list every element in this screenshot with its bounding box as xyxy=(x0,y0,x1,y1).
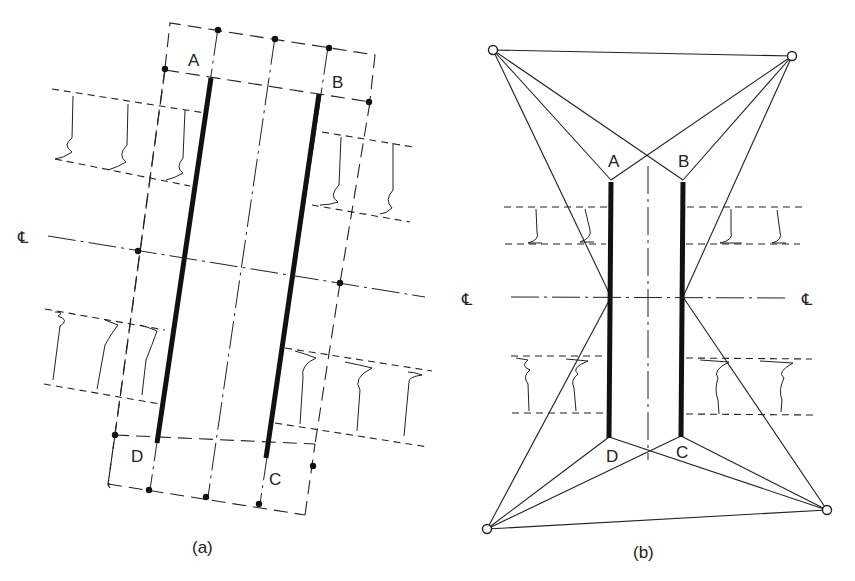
node-dot xyxy=(272,36,278,42)
node-dot xyxy=(162,66,168,72)
tieback-ray xyxy=(683,297,827,510)
soil-profile xyxy=(404,372,422,436)
anchor-ring xyxy=(788,52,797,61)
tieback-ray xyxy=(683,56,792,180)
node-dot xyxy=(256,501,262,507)
node-dot xyxy=(215,27,221,33)
centerline-b xyxy=(511,297,787,298)
node-dot xyxy=(112,432,118,438)
node-dot xyxy=(337,280,343,286)
soil-profile xyxy=(760,361,793,412)
wall-left xyxy=(609,182,611,438)
tieback-ray xyxy=(487,436,681,529)
centerline-label-b-left: ℄ xyxy=(461,290,473,309)
profile-band-bottom xyxy=(55,159,190,186)
soil-profile xyxy=(566,359,588,411)
corner-label-b: B xyxy=(332,73,343,92)
tieback-ray xyxy=(493,50,611,180)
anchor-ring xyxy=(489,46,498,55)
soil-profile xyxy=(772,210,786,243)
corner-label-d: D xyxy=(131,447,143,466)
figure-canvas: ℄ A xyxy=(0,0,855,581)
tieback-ray xyxy=(493,50,611,297)
soil-profile xyxy=(53,312,65,380)
soil-profile xyxy=(140,325,157,395)
axis-line-2 xyxy=(208,37,275,497)
profile-band-top xyxy=(52,89,205,113)
profile-band-top xyxy=(322,132,413,147)
anchor-ring xyxy=(483,525,492,534)
node-dot xyxy=(203,494,209,500)
tieback-ray xyxy=(609,437,827,510)
soil-profile xyxy=(97,320,118,389)
soil-profile xyxy=(700,360,729,414)
profile-band-top xyxy=(686,358,812,359)
centerline-a xyxy=(48,236,425,297)
soil-profile xyxy=(166,110,185,180)
node-dot xyxy=(146,487,152,493)
tieback-ray xyxy=(683,56,792,297)
tieback-ray xyxy=(681,436,827,510)
centerline-label-a: ℄ xyxy=(17,228,29,247)
soil-profile xyxy=(380,143,393,214)
bottom-strut xyxy=(487,510,827,529)
tieback-ray xyxy=(487,437,609,529)
tieback-ray xyxy=(493,50,683,180)
soil-profile xyxy=(720,209,742,243)
corner-label-b: B xyxy=(678,152,689,171)
corner-label-c: C xyxy=(676,443,688,462)
corner-label-a: A xyxy=(188,51,200,70)
soil-profile xyxy=(108,104,128,170)
caption-b: (b) xyxy=(633,543,654,562)
profile-band-bottom xyxy=(312,205,410,222)
soil-profile xyxy=(295,351,316,424)
tieback-ray xyxy=(611,56,792,180)
profile-band-top xyxy=(285,348,432,371)
profile-band-bottom xyxy=(686,414,814,415)
soil-profile xyxy=(516,358,530,411)
soil-profile xyxy=(345,362,372,431)
panel-b: ℄ ℄ A B C D (b) xyxy=(461,46,832,563)
caption-a: (a) xyxy=(192,538,213,557)
wall-right xyxy=(681,182,683,437)
node-dot xyxy=(366,99,372,105)
soil-profile xyxy=(320,137,341,205)
right-side-dashed xyxy=(340,102,370,283)
soil-profile xyxy=(55,96,73,159)
anchor-ring xyxy=(823,506,832,515)
node-dot xyxy=(310,463,316,469)
bottom-inner-dashed xyxy=(115,435,315,444)
right-bottom-side xyxy=(305,444,315,515)
corner-label-c: C xyxy=(269,470,281,489)
centerline-label-b-right: ℄ xyxy=(801,290,813,309)
left-side-lower xyxy=(108,435,115,484)
node-dot xyxy=(326,45,332,51)
panel-a: ℄ A xyxy=(17,23,432,557)
soil-profile xyxy=(528,209,542,243)
right-side-lower xyxy=(315,283,340,444)
corner-label-d: D xyxy=(606,447,618,466)
node-dot xyxy=(135,248,141,254)
top-strut xyxy=(493,50,792,56)
diagram-svg: ℄ A xyxy=(0,0,855,581)
corner-label-a: A xyxy=(608,152,620,171)
